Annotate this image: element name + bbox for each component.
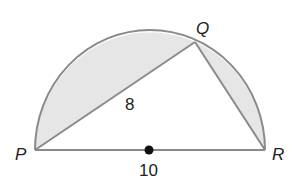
semicircle-diagram: P Q R 8 10: [0, 0, 292, 189]
center-point: [145, 146, 154, 155]
length-label-pq: 8: [125, 95, 134, 114]
vertex-label-p: P: [15, 145, 27, 164]
length-label-pr: 10: [139, 161, 158, 180]
vertex-label-q: Q: [196, 19, 209, 38]
vertex-label-r: R: [272, 145, 284, 164]
chord-qr: [195, 42, 265, 150]
shaded-segment-pq: [35, 32, 195, 150]
